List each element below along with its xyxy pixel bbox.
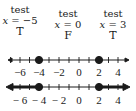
test-points-line-labels: −6 −4 −2 0 2 4 [14, 66, 121, 78]
closed-point-icon [95, 56, 102, 63]
right-arrow-icon [123, 84, 130, 91]
closed-point-icon [35, 56, 42, 63]
right-arrow-icon [125, 58, 129, 62]
solution-line [6, 83, 130, 90]
left-arrow-icon [8, 58, 12, 62]
svg-text:−6: −6 [14, 66, 26, 78]
svg-text:0: 0 [76, 66, 82, 78]
svg-text:2: 2 [96, 66, 102, 78]
svg-text:−2: −2 [53, 66, 65, 78]
solution-line-labels: − 6 − 4 − 2 0 2 4 [13, 94, 121, 106]
closed-point-icon [95, 83, 102, 90]
test-points-line [8, 56, 129, 63]
number-lines: −6 −4 −2 0 2 4 − 6 − 4 − 2 0 2 4 [0, 0, 136, 111]
svg-text:0: 0 [76, 94, 82, 106]
svg-text:−4: −4 [33, 66, 45, 78]
svg-text:4: 4 [115, 94, 121, 106]
left-arrow-icon [6, 84, 13, 91]
svg-text:− 6: − 6 [13, 94, 28, 106]
svg-text:− 4: − 4 [32, 94, 47, 106]
svg-text:2: 2 [96, 94, 102, 106]
closed-point-icon [35, 83, 42, 90]
svg-text:− 2: − 2 [52, 94, 66, 106]
svg-text:4: 4 [115, 66, 121, 78]
